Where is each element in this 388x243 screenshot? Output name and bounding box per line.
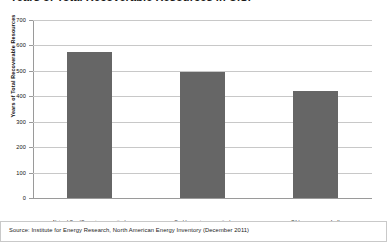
y-axis-tick-mark — [29, 71, 33, 72]
y-axis-tick-mark — [29, 96, 33, 97]
y-axis-tick-label: 300 — [16, 119, 26, 125]
y-axis-tick-mark — [29, 198, 33, 199]
y-axis-tick-label: 400 — [16, 93, 26, 99]
y-axis-tick-mark — [29, 20, 33, 21]
y-axis-tick-mark — [29, 45, 33, 46]
y-axis-tick-mark — [29, 147, 33, 148]
y-axis-tick-label: 200 — [16, 144, 26, 150]
bar — [293, 91, 338, 198]
y-axis-tick-label: 700 — [16, 17, 26, 23]
y-axis-tick-label: 500 — [16, 68, 26, 74]
chart-plot-area: Years of Total Recoverable Resources 010… — [0, 8, 388, 220]
chart-title: Years of Total Recoverable Resources in … — [10, 0, 340, 5]
y-axis-line — [33, 20, 34, 198]
y-axis-tick-label: 600 — [16, 42, 26, 48]
plot-canvas: 0100200300400500600700 Natural Gas (Curr… — [33, 20, 372, 198]
y-axis-tick-mark — [29, 173, 33, 174]
y-axis-tick-label: 100 — [16, 170, 26, 176]
bar — [180, 72, 225, 198]
gridline — [33, 45, 372, 46]
source-note-text: Source: Institute for Energy Research, N… — [9, 227, 249, 233]
bar — [67, 52, 112, 198]
gridline — [33, 198, 372, 199]
source-note-box: Source: Institute for Energy Research, N… — [0, 221, 387, 242]
y-axis-tick-label: 0 — [23, 195, 26, 201]
y-axis-title: Years of Total Recoverable Resources — [10, 6, 16, 126]
gridline — [33, 20, 372, 21]
y-axis-tick-mark — [29, 122, 33, 123]
